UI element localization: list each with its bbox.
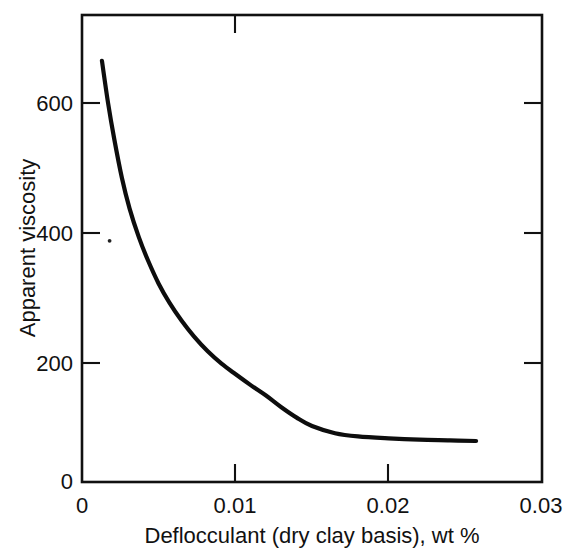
y-tick-labels: 600 400 200 0 bbox=[36, 91, 73, 494]
y-axis-ticks bbox=[82, 103, 542, 363]
x-tick-label-0.02: 0.02 bbox=[367, 493, 410, 518]
y-axis-title: Apparent viscosity bbox=[15, 159, 40, 338]
y-tick-label-0: 0 bbox=[61, 469, 73, 494]
x-tick-label-0.01: 0.01 bbox=[214, 493, 257, 518]
viscosity-deflocculant-chart: 600 400 200 0 0 0.01 0.02 0.03 Apparent … bbox=[0, 0, 575, 558]
figure-container: 600 400 200 0 0 0.01 0.02 0.03 Apparent … bbox=[0, 0, 575, 558]
plot-frame bbox=[82, 15, 542, 482]
x-axis-ticks bbox=[235, 15, 388, 482]
x-tick-label-0: 0 bbox=[76, 493, 88, 518]
y-tick-label-200: 200 bbox=[36, 351, 73, 376]
x-axis-title: Deflocculant (dry clay basis), wt % bbox=[145, 523, 480, 548]
x-tick-labels: 0 0.01 0.02 0.03 bbox=[76, 493, 563, 518]
print-speck bbox=[108, 239, 112, 243]
y-tick-label-600: 600 bbox=[36, 91, 73, 116]
y-tick-label-400: 400 bbox=[36, 221, 73, 246]
viscosity-curve bbox=[102, 61, 476, 441]
x-tick-label-0.03: 0.03 bbox=[520, 493, 563, 518]
